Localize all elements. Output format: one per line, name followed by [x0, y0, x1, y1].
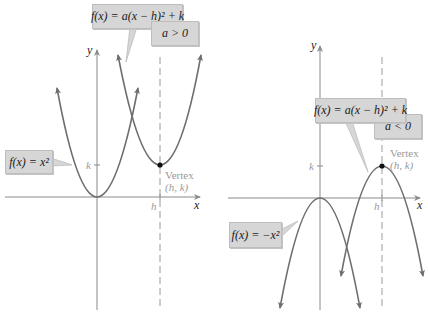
right-h-tick-label: h [374, 200, 380, 212]
right-vertex-dot [379, 163, 384, 168]
left-k-tick-label: k [86, 159, 91, 171]
right-general-formula-box: f(x) = a(x − h)² + k [315, 98, 406, 123]
left-x-axis-label: x [194, 198, 199, 213]
right-graph [228, 46, 423, 310]
left-vertex-coords: (h, k) [165, 181, 188, 193]
left-general-callout-pointer [126, 27, 137, 62]
right-k-tick-label: k [309, 160, 314, 172]
right-general-callout-pointer [345, 121, 368, 172]
curve-shifted-down-right-arm [382, 166, 423, 276]
right-base-formula-box: f(x) = −x² [229, 222, 282, 248]
left-vertex-label: Vertex [165, 169, 194, 181]
right-x-axis-label: x [417, 198, 422, 213]
left-condition-box: a > 0 [151, 21, 199, 46]
right-y-axis-label: y [311, 38, 316, 53]
curve-x-squared-right-arm [97, 88, 138, 197]
curve-shifted-down-left-arm [341, 166, 382, 276]
left-h-tick-label: h [151, 200, 157, 212]
right-vertex-coords: (h, k) [390, 159, 413, 171]
curve-x-squared-left-arm [57, 88, 97, 197]
left-base-formula-box: f(x) = x² [5, 150, 53, 174]
left-y-axis-label: y [87, 43, 92, 58]
curve-neg-x-squared-left-arm [280, 198, 320, 308]
left-vertex-dot [157, 162, 162, 167]
right-vertex-label: Vertex [390, 147, 419, 159]
right-base-callout-pointer [280, 221, 298, 238]
left-base-callout-pointer [51, 158, 72, 166]
parabola-diagrams [0, 0, 428, 320]
curve-shifted-up-right-arm [160, 55, 201, 165]
